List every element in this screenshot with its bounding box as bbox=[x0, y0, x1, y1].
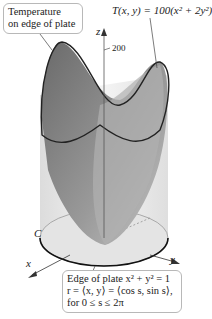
z-axis-label: z bbox=[96, 25, 100, 37]
temperature-callout-line2: on edge of plate bbox=[8, 18, 78, 30]
x-axis-label: x bbox=[26, 257, 31, 269]
y-axis-label: y bbox=[170, 253, 175, 265]
temperature-callout: Temperature on edge of plate bbox=[3, 3, 83, 34]
edge-callout: Edge of plate x² + y² = 1 r = ⟨x, y⟩ = ⟨… bbox=[62, 270, 182, 313]
edge-callout-line3: for 0 ≤ s ≤ 2π bbox=[67, 297, 177, 309]
edge-callout-line2: r = ⟨x, y⟩ = ⟨cos s, sin s⟩, bbox=[67, 285, 177, 297]
z-tick-200: 200 bbox=[112, 43, 126, 53]
curve-c-label: C bbox=[34, 227, 41, 239]
temperature-callout-line1: Temperature bbox=[8, 6, 78, 18]
edge-callout-line1: Edge of plate x² + y² = 1 bbox=[67, 273, 177, 285]
temperature-formula: T(x, y) = 100(x² + 2y²) bbox=[112, 4, 212, 16]
